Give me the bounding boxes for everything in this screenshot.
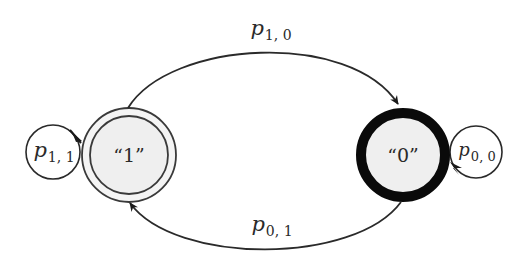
transition-label-0-0: p0, 0	[458, 141, 495, 159]
prob-subscript: 1, 0	[265, 27, 292, 43]
prob-subscript: 0, 0	[471, 149, 496, 164]
prob-symbol: p	[33, 138, 46, 162]
transition-label-0-1: p0, 1	[251, 214, 292, 235]
prob-symbol: p	[250, 16, 263, 40]
prob-symbol: p	[458, 139, 470, 160]
prob-symbol: p	[251, 212, 264, 236]
transition-label-1-0: p1, 0	[250, 18, 291, 39]
state-1-label: “1”	[113, 146, 145, 165]
transition-1-to-0	[128, 53, 398, 108]
state-0-label: “0”	[387, 146, 419, 165]
transition-label-1-1: p1, 1	[33, 140, 74, 161]
prob-subscript: 1, 1	[48, 149, 75, 165]
prob-subscript: 0, 1	[266, 223, 293, 239]
